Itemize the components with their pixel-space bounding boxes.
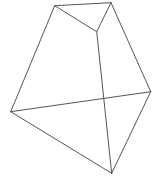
edge-d-e (11, 92, 151, 112)
edge-b-c (97, 3, 111, 32)
edge-b-e (111, 3, 151, 92)
edge-group (11, 3, 151, 174)
edge-a-d (11, 6, 55, 112)
edge-d-f (11, 112, 112, 174)
edge-a-c (55, 6, 97, 32)
edge-c-f (97, 32, 112, 174)
edge-e-f (112, 92, 151, 174)
polyhedron-diagram (0, 0, 160, 182)
edge-a-b (55, 3, 111, 6)
